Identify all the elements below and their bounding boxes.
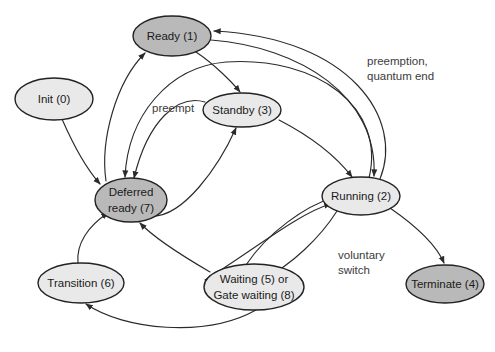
node-ready-label: Ready (1)	[147, 30, 198, 42]
node-waiting-shape[interactable]	[204, 264, 304, 310]
node-deferred-ready-label-line1: Deferred	[109, 186, 154, 198]
edge-transition-to-deferred-ready	[78, 213, 108, 263]
node-deferred-ready-label-line2: ready (7)	[108, 202, 154, 214]
node-waiting-label-line1: Waiting (5) or	[220, 273, 289, 285]
state-diagram-canvas: Ready (1) Init (0) Standby (3) Deferred …	[0, 0, 495, 352]
node-ready[interactable]: Ready (1)	[133, 16, 211, 56]
edge-init-to-deferred-ready	[62, 119, 100, 184]
edge-ready-to-standby	[196, 52, 240, 92]
edge-label-voluntary-switch-line1: voluntary	[338, 249, 385, 261]
node-transition-label: Transition (6)	[47, 277, 114, 289]
edge-label-preemption-line1: preemption,	[367, 55, 428, 67]
node-deferred-ready-shape[interactable]	[95, 178, 167, 222]
edge-standby-to-running	[279, 120, 352, 177]
edge-label-voluntary-switch-line2: switch	[338, 264, 370, 276]
edge-waiting-to-deferred-ready	[140, 223, 210, 272]
node-init-label: Init (0)	[38, 93, 71, 105]
node-deferred-ready[interactable]: Deferred ready (7)	[95, 178, 167, 222]
node-standby[interactable]: Standby (3)	[203, 93, 281, 127]
node-terminate[interactable]: Terminate (4)	[406, 265, 484, 303]
node-terminate-label: Terminate (4)	[411, 278, 479, 290]
node-running-label: Running (2)	[331, 190, 391, 202]
node-transition[interactable]: Transition (6)	[38, 263, 124, 303]
edge-label-preempt: preempt	[152, 102, 195, 114]
node-waiting-label-line2: Gate waiting (8)	[213, 289, 294, 301]
edge-label-preemption-line2: quantum end	[367, 70, 434, 82]
node-waiting[interactable]: Waiting (5) or Gate waiting (8)	[204, 264, 304, 310]
edge-running-to-terminate	[390, 208, 444, 263]
node-init[interactable]: Init (0)	[15, 78, 93, 120]
edge-labels-layer: preemption, quantum end preempt voluntar…	[152, 55, 434, 276]
node-running[interactable]: Running (2)	[322, 177, 400, 215]
node-standby-label: Standby (3)	[212, 104, 272, 116]
state-diagram-container: Ready (1) Init (0) Standby (3) Deferred …	[0, 0, 495, 352]
